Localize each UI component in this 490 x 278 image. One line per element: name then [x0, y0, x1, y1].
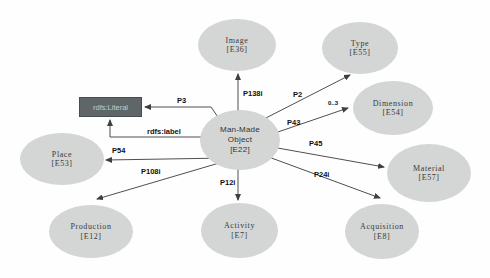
node-acquisition-label: Acquisition — [360, 222, 404, 232]
node-production: Production [E12] — [49, 205, 133, 258]
node-production-code: [E12] — [80, 232, 101, 242]
node-activity-code: [E7] — [231, 231, 248, 241]
node-man-made-object-line1: Man-Made — [220, 125, 260, 135]
diagram-canvas: Image [E36] Type [E55] Dimension [E54] M… — [0, 0, 490, 278]
node-dimension-code: [E54] — [382, 108, 403, 118]
node-image-code: [E36] — [226, 45, 247, 55]
node-activity: Activity [E7] — [201, 203, 278, 258]
edge-label-p108i: P108i — [141, 167, 161, 176]
node-place: Place [E53] — [20, 133, 104, 185]
node-man-made-object-line2: Object — [228, 135, 252, 145]
edge-label-rdfs-label: rdfs:label — [147, 127, 181, 136]
edge-label-p24i: P24i — [314, 170, 329, 179]
edge-label-p12i: P12i — [220, 178, 235, 187]
node-activity-label: Activity — [224, 221, 255, 231]
edge-cardinality-p43: 0..3 — [328, 100, 338, 106]
node-acquisition: Acquisition [E8] — [345, 204, 419, 259]
edge-label-p2: P2 — [293, 90, 302, 99]
node-material-label: Material — [413, 164, 445, 174]
node-man-made-object-code: [E22] — [230, 145, 250, 155]
node-acquisition-code: [E8] — [374, 232, 391, 242]
node-material: Material [E57] — [387, 144, 471, 202]
edge-p3 — [145, 107, 220, 120]
node-man-made-object: Man-Made Object [E22] — [200, 110, 280, 170]
edge-label-p43: P43 — [287, 118, 300, 127]
node-image: Image [E36] — [198, 19, 276, 71]
edge-label-p45: P45 — [309, 139, 322, 148]
edge-p108i — [97, 161, 226, 199]
node-type-label: Type — [351, 39, 369, 49]
edge-label-p3: P3 — [177, 96, 186, 105]
edge-p43 — [272, 108, 348, 134]
node-image-label: Image — [226, 36, 249, 46]
node-place-label: Place — [52, 150, 72, 160]
edge-label-p138i: P138i — [243, 89, 263, 98]
node-material-code: [E57] — [418, 173, 439, 183]
node-production-label: Production — [70, 222, 111, 232]
literal-label: rdfs:Literal — [93, 103, 128, 112]
node-dimension-label: Dimension — [373, 99, 414, 109]
literal-box: rdfs:Literal — [79, 97, 142, 117]
node-type-code: [E55] — [349, 48, 370, 58]
edge-label-p54: P54 — [112, 146, 125, 155]
edge-p2 — [262, 75, 350, 120]
node-place-code: [E53] — [51, 159, 72, 169]
node-dimension: Dimension [E54] — [353, 81, 433, 135]
node-type: Type [E55] — [322, 22, 398, 74]
